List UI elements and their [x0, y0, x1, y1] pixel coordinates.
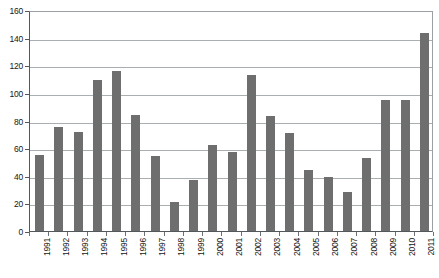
- y-axis-tick-label: 40: [14, 173, 23, 182]
- x-axis-tick-mark: [260, 232, 261, 236]
- x-axis-tick-label: 2000: [216, 238, 225, 256]
- y-axis-tick-label: 60: [14, 145, 23, 154]
- x-axis-tick-label: 2005: [312, 238, 321, 256]
- x-axis-tick-label: 2004: [293, 238, 302, 256]
- y-axis-tick-label: 160: [9, 7, 23, 16]
- x-axis-tick-mark: [164, 232, 165, 236]
- x-axis-tick-mark: [433, 232, 434, 236]
- x-axis-tick-mark: [106, 232, 107, 236]
- x-axis-tick-label: 1998: [177, 238, 186, 256]
- x-axis-tick-label: 1992: [62, 238, 71, 256]
- x-axis-tick-mark: [48, 232, 49, 236]
- x-axis-tick-mark: [298, 232, 299, 236]
- y-axis-tick-label: 20: [14, 200, 23, 209]
- bar: [35, 155, 44, 231]
- bars-layer: [30, 12, 432, 231]
- x-axis-tick-label: 1999: [197, 238, 206, 256]
- x-axis-tick-mark: [202, 232, 203, 236]
- bar: [266, 116, 275, 231]
- bar: [170, 202, 179, 231]
- x-axis-tick-mark: [318, 232, 319, 236]
- bar: [54, 127, 63, 231]
- x-axis-tick-mark: [144, 232, 145, 236]
- x-axis-tick-mark: [221, 232, 222, 236]
- bar: [285, 133, 294, 231]
- bar: [381, 100, 390, 231]
- x-axis-tick-label: 2011: [427, 238, 436, 255]
- x-axis-tick-mark: [125, 232, 126, 236]
- bar: [131, 115, 140, 231]
- x-axis-tick-mark: [395, 232, 396, 236]
- bar: [362, 158, 371, 231]
- x-axis-tick-label: 1994: [100, 238, 109, 256]
- x-axis-tick-label: 2007: [350, 238, 359, 256]
- bar: [228, 152, 237, 231]
- x-axis-tick-label: 2003: [273, 238, 282, 256]
- bar: [74, 132, 83, 231]
- x-axis-tick-mark: [337, 232, 338, 236]
- x-axis-tick-mark: [241, 232, 242, 236]
- bar: [208, 145, 217, 231]
- bar: [93, 80, 102, 231]
- x-axis-tick-mark: [67, 232, 68, 236]
- bar: [247, 75, 256, 231]
- bar: [189, 180, 198, 231]
- x-axis-tick-mark: [183, 232, 184, 236]
- x-axis-tick-mark: [29, 232, 30, 236]
- x-axis-tick-labels: 1991199219931994199519961997199819992000…: [29, 238, 433, 278]
- bar: [112, 71, 121, 231]
- y-axis-tick-label: 140: [9, 34, 23, 43]
- x-axis-tick-label: 2008: [370, 238, 379, 256]
- x-axis-tick-mark: [279, 232, 280, 236]
- y-axis-tick-label: 80: [14, 117, 23, 126]
- x-axis-tick-label: 1997: [158, 238, 167, 256]
- bar: [343, 192, 352, 231]
- x-axis-tick-label: 2006: [331, 238, 340, 256]
- x-axis-tick-label: 1996: [139, 238, 148, 256]
- x-axis-tick-label: 1995: [120, 238, 129, 256]
- bar: [151, 156, 160, 231]
- x-axis-tick-mark: [87, 232, 88, 236]
- x-axis-tick-mark: [356, 232, 357, 236]
- y-axis-tick-label: 0: [18, 228, 23, 237]
- x-axis-tick-mark: [375, 232, 376, 236]
- x-axis-tick-label: 1993: [81, 238, 90, 256]
- y-axis-tick-labels: 020406080100120140160: [0, 0, 26, 278]
- x-axis-tick-label: 2009: [389, 238, 398, 256]
- bar: [304, 170, 313, 231]
- x-axis-tick-mark: [414, 232, 415, 236]
- y-axis-tick-label: 120: [9, 62, 23, 71]
- x-axis-tick-label: 2010: [408, 238, 417, 256]
- x-axis-tick-label: 2002: [254, 238, 263, 256]
- x-axis-tick-label: 2001: [235, 238, 244, 256]
- bar-chart: 020406080100120140160 199119921993199419…: [0, 0, 439, 278]
- bar: [401, 100, 410, 231]
- bar: [420, 33, 429, 231]
- bar: [324, 177, 333, 231]
- plot-area: [29, 11, 433, 232]
- x-axis-tick-marks: [29, 232, 433, 237]
- y-axis-tick-label: 100: [9, 90, 23, 99]
- x-axis-tick-label: 1991: [43, 238, 52, 256]
